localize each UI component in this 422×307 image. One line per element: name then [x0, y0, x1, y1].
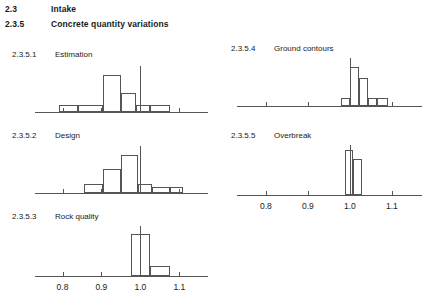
histogram-bar: [150, 105, 169, 113]
histogram-bar: [136, 105, 150, 113]
histogram-bar: [121, 93, 137, 112]
x-axis-tick: [63, 272, 64, 276]
x-axis-tick: [101, 272, 102, 276]
x-axis-tick-label: 1.1: [380, 201, 404, 211]
x-axis-line: [237, 195, 422, 196]
panel-number: 2.3.5.4: [231, 44, 255, 53]
panel-label: Overbreak: [274, 131, 311, 140]
histogram-bar: [377, 98, 387, 106]
histogram-bar: [103, 75, 121, 113]
histogram-bar: [368, 98, 377, 106]
histogram-bar: [84, 184, 103, 193]
panel-number: 2.3.5.5: [231, 131, 255, 140]
histogram-bar: [341, 98, 350, 106]
x-axis-tick: [392, 102, 393, 106]
reference-line: [140, 66, 141, 113]
x-axis-tick-label: 1.1: [167, 282, 191, 292]
histogram-bar: [353, 159, 362, 195]
panel-number: 2.3.5.1: [12, 50, 36, 59]
panel-label: Rock quality: [55, 212, 99, 221]
histogram-bar: [152, 187, 170, 193]
plot-area-design: [12, 145, 204, 215]
section-title: Intake: [51, 4, 76, 14]
x-axis-tick-label: 1.0: [338, 201, 362, 211]
x-axis-tick: [179, 272, 180, 276]
x-axis-line: [35, 276, 208, 277]
histogram-bar: [121, 155, 139, 193]
plot-area-estimation: [12, 64, 204, 134]
reference-line: [140, 226, 141, 276]
x-axis-tick-label: 1.0: [128, 282, 152, 292]
reference-line: [140, 146, 141, 193]
histogram-bar: [170, 187, 184, 193]
x-axis-line: [35, 193, 208, 194]
x-axis-tick: [308, 191, 309, 195]
x-axis-tick-label: 0.8: [51, 282, 75, 292]
reference-line: [350, 58, 351, 106]
panel-label: Estimation: [55, 50, 92, 59]
histogram-bar: [359, 78, 368, 106]
histogram-bar: [150, 266, 169, 276]
histogram-bar: [350, 67, 359, 106]
plot-area-ground-contours: [231, 58, 418, 128]
x-axis-tick-label: 0.9: [89, 282, 113, 292]
section-number: 2.3.5: [5, 19, 24, 29]
panel-label: Design: [55, 131, 80, 140]
x-axis-tick: [308, 102, 309, 106]
plot-area-rock-quality: 0.80.91.01.1: [12, 226, 204, 298]
plot-area-overbreak: 0.80.91.01.1: [231, 145, 418, 217]
panel-number: 2.3.5.2: [12, 131, 36, 140]
x-axis-tick: [179, 108, 180, 112]
x-axis-tick-label: 0.9: [296, 201, 320, 211]
x-axis-tick: [266, 102, 267, 106]
histogram-bar: [59, 105, 78, 113]
x-axis-line: [35, 112, 208, 113]
panel-number: 2.3.5.3: [12, 212, 36, 221]
section-title: Concrete quantity variations: [51, 19, 169, 29]
section-number: 2.3: [5, 4, 17, 14]
reference-line: [350, 145, 351, 195]
x-axis-tick: [392, 191, 393, 195]
x-axis-tick-label: 0.8: [254, 201, 278, 211]
x-axis-line: [237, 106, 422, 107]
histogram-bar: [78, 105, 103, 113]
panel-label: Ground contours: [274, 44, 334, 53]
x-axis-tick: [63, 189, 64, 193]
x-axis-tick: [266, 191, 267, 195]
histogram-bar: [103, 169, 121, 193]
